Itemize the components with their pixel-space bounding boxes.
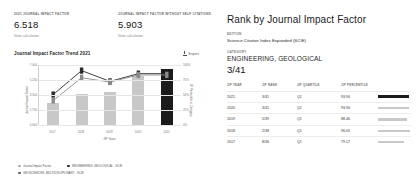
page-title: Rank by Journal Impact Factor [227, 14, 411, 25]
cell-year: 2021 [227, 91, 262, 102]
y-axis-tick: 0.000 [30, 123, 37, 127]
percentile-bar-track [378, 130, 411, 133]
chart-data-point[interactable] [80, 68, 83, 74]
chart-gridline [39, 65, 181, 66]
legend-swatch-icon [67, 165, 70, 168]
metric-card-label: 2021 JOURNAL IMPACT FACTOR [14, 12, 96, 16]
jcr-metrics-page: 2021 JOURNAL IMPACT FACTOR 6.518 View ca… [0, 0, 417, 184]
x-axis-tick: 2020 [124, 130, 153, 134]
chart-plot-area: 7.000100%5.25075%3.50050%1.75025%0.0000% [38, 65, 181, 125]
rank-table: JIF YEAR JIF RANK JIF QUARTILE JIF PERCE… [227, 83, 411, 147]
legend-swatch-icon [18, 172, 21, 175]
rank-value: 3/41 [227, 64, 411, 75]
legend-item-jif[interactable]: Journal Impact Factor [18, 164, 51, 168]
metric-card-jif: 2021 JOURNAL IMPACT FACTOR 6.518 View ca… [14, 12, 96, 38]
edition-label: EDITION [227, 32, 411, 36]
cell-percentile-bar [378, 125, 411, 136]
y-axis-tick: 7.000 [30, 63, 37, 67]
percentile-bar-track [378, 107, 411, 110]
legend-label: GEOSCIENCES, MULTIDISCIPLINARY - SCIE [23, 171, 84, 175]
percentile-bar-fill [378, 118, 407, 121]
cell-quartile: Q1 [297, 114, 341, 125]
x-axis-tick: 2017 [38, 130, 67, 134]
y2-axis-tick: 75% [183, 78, 189, 82]
table-header-row: JIF YEAR JIF RANK JIF QUARTILE JIF PERCE… [227, 83, 411, 91]
chart-gridline [39, 95, 181, 96]
cell-year: 2020 [227, 102, 262, 113]
percentile-bar-fill [378, 107, 409, 110]
cell-percentile: 96.05 [341, 125, 378, 136]
category-label: CATEGORY [227, 50, 411, 54]
metric-card-value: 5.903 [118, 19, 200, 30]
cell-percentile-bar [378, 137, 411, 148]
chart-gridline [39, 110, 181, 111]
y-axis-title: Journal Impact Factor [25, 86, 29, 114]
column-header-jif-year: JIF YEAR [227, 83, 262, 91]
export-label: Export [189, 52, 199, 56]
cell-rank: 8/36 [262, 137, 297, 148]
percentile-bar-track [378, 141, 411, 144]
cell-percentile-bar [378, 91, 411, 102]
cell-year: 2018 [227, 125, 262, 136]
column-header-jif-quartile: JIF QUARTILE [297, 83, 341, 91]
jif-trend-chart: Journal Impact Factor JIF Percentile in … [14, 61, 205, 139]
x-axis-tick: 2018 [67, 130, 96, 134]
table-row: 20195/39Q188.46 [227, 114, 411, 125]
chart-data-point[interactable] [165, 72, 168, 78]
view-calculation-link[interactable]: View calculation [118, 34, 200, 38]
chart-data-point[interactable] [137, 72, 140, 78]
cell-percentile: 79.17 [341, 137, 378, 148]
metric-card-value: 6.518 [14, 19, 96, 30]
rank-panel: Rank by Journal Impact Factor EDITION Sc… [213, 0, 417, 184]
edition-value: Science Citation Index Expanded (SCIE) [227, 38, 411, 43]
legend-item-engineering-geological[interactable]: ENGINEERING, GEOLOGICAL - SCIE [67, 164, 122, 168]
table-row: 20182/38Q196.05 [227, 125, 411, 136]
y2-axis-tick: 50% [183, 93, 189, 97]
chart-gridline [39, 80, 181, 81]
cell-percentile-bar [378, 114, 411, 125]
cell-year: 2017 [227, 137, 262, 148]
percentile-bar-fill [378, 130, 410, 133]
legend-label: Journal Impact Factor [23, 164, 51, 168]
cell-percentile-bar [378, 102, 411, 113]
percentile-bar-track [378, 118, 411, 121]
cell-quartile: Q1 [297, 125, 341, 136]
column-header-jif-rank: JIF RANK [262, 83, 297, 91]
y2-axis-tick: 0% [183, 123, 187, 127]
cell-quartile: Q1 [297, 137, 341, 148]
chart-x-labels: 20172018201920202021 [38, 130, 181, 134]
metric-card-label: JOURNAL IMPACT FACTOR WITHOUT SELF CITAT… [118, 12, 200, 16]
metric-card-jif-no-self-cites: JOURNAL IMPACT FACTOR WITHOUT SELF CITAT… [118, 12, 200, 38]
legend-item-geosciences-multidisciplinary[interactable]: GEOSCIENCES, MULTIDISCIPLINARY - SCIE [18, 171, 84, 175]
cell-rank: 3/41 [262, 102, 297, 113]
trend-chart-title: Journal Impact Factor Trend 2021 [14, 51, 90, 56]
cell-quartile: Q1 [297, 91, 341, 102]
y2-axis-tick: 100% [183, 63, 190, 67]
cell-year: 2019 [227, 114, 262, 125]
view-calculation-link[interactable]: View calculation [14, 34, 96, 38]
legend-label: ENGINEERING, GEOLOGICAL - SCIE [72, 164, 122, 168]
table-row: 20213/41Q193.90 [227, 91, 411, 102]
trend-header: Journal Impact Factor Trend 2021 Export [14, 51, 205, 56]
x-axis-tick: 2019 [95, 130, 124, 134]
chart-gridline [39, 125, 181, 126]
y-axis-tick: 3.500 [30, 93, 37, 97]
legend-swatch-icon [18, 165, 21, 168]
download-icon [183, 51, 187, 56]
cell-rank: 3/41 [262, 91, 297, 102]
cell-rank: 2/38 [262, 125, 297, 136]
y2-axis-tick: 25% [183, 108, 189, 112]
cell-quartile: Q1 [297, 102, 341, 113]
cell-percentile: 93.90 [341, 102, 378, 113]
export-button[interactable]: Export [183, 51, 199, 56]
percentile-bar-fill [378, 141, 404, 144]
column-header-percentile-bar [378, 83, 411, 91]
impact-factor-panel: 2021 JOURNAL IMPACT FACTOR 6.518 View ca… [0, 0, 213, 184]
y-axis-tick: 5.250 [30, 78, 37, 82]
chart-legend: Journal Impact Factor ENGINEERING, GEOLO… [18, 164, 207, 178]
table-row: 20178/36Q179.17 [227, 137, 411, 148]
cell-percentile: 93.90 [341, 91, 378, 102]
x-axis-title: JIF Years [14, 137, 205, 141]
column-header-jif-percentile: JIF PERCENTILE [341, 83, 378, 91]
chart-data-point[interactable] [51, 97, 54, 103]
